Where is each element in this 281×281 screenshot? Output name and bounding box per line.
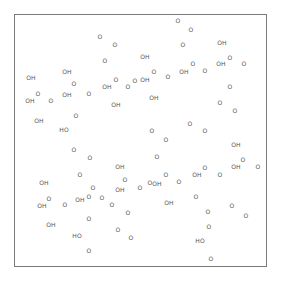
atom-label-oxygen: O xyxy=(72,81,77,87)
atom-label-oxygen: O xyxy=(133,78,138,84)
atom-label-oxygen: O xyxy=(203,68,208,74)
atom-label-oxygen: O xyxy=(100,195,105,201)
atom-label-oxygen: O xyxy=(241,157,246,163)
atom-label-hydroxyl: OH xyxy=(34,118,43,124)
atom-label-hydroxyl: OH xyxy=(140,77,149,83)
atom-label-oxygen: O xyxy=(123,177,128,183)
atom-label-oxygen: O xyxy=(138,185,143,191)
atom-label-oxygen: O xyxy=(74,113,79,119)
atom-label-hydroxyl: OH xyxy=(75,197,84,203)
atom-label-oxygen: O xyxy=(116,227,121,233)
atom-label-oxygen: O xyxy=(203,128,208,134)
atom-label-oxygen: O xyxy=(244,213,249,219)
atom-label-oxygen: O xyxy=(230,203,235,209)
atom-label-oxygen: O xyxy=(114,77,119,83)
atom-label-hydroxyl: OH xyxy=(179,69,188,75)
atom-label-oxygen: O xyxy=(103,58,108,64)
atom-label-oxygen: O xyxy=(78,172,83,178)
atom-label-hydroxyl: OH xyxy=(140,54,149,60)
atom-label-oxygen: O xyxy=(126,84,131,90)
atom-label-oxygen: O xyxy=(150,128,155,134)
atom-label-hydroxyl: OH xyxy=(25,98,34,104)
atom-label-hydroxyl-ho: HO xyxy=(195,238,204,244)
atom-label-oxygen: O xyxy=(164,172,169,178)
atom-label-hydroxyl: OH xyxy=(37,203,46,209)
atom-label-hydroxyl: OH xyxy=(111,102,120,108)
atom-label-oxygen: O xyxy=(256,164,261,170)
atom-label-oxygen: O xyxy=(207,224,212,230)
atom-label-oxygen: O xyxy=(113,42,118,48)
atom-label-oxygen: O xyxy=(49,98,54,104)
atom-label-oxygen: O xyxy=(166,74,171,80)
atom-label-oxygen: O xyxy=(87,91,92,97)
atom-label-oxygen: O xyxy=(36,91,41,97)
atom-label-hydroxyl: OH xyxy=(164,200,173,206)
atom-label-oxygen: O xyxy=(177,179,182,185)
atom-label-oxygen: O xyxy=(228,84,233,90)
atom-label-oxygen: O xyxy=(98,34,103,40)
atom-label-oxygen: O xyxy=(91,185,96,191)
atom-label-oxygen: O xyxy=(188,121,193,127)
atom-label-hydroxyl: OH xyxy=(152,181,161,187)
atom-label-oxygen: O xyxy=(152,69,157,75)
atom-label-oxygen: O xyxy=(181,42,186,48)
atom-label-oxygen: O xyxy=(206,209,211,215)
atom-label-hydroxyl: OH xyxy=(26,75,35,81)
atom-label-hydroxyl: OH xyxy=(39,180,48,186)
atom-label-oxygen: O xyxy=(242,61,247,67)
atom-label-hydroxyl: OH xyxy=(62,69,71,75)
atom-label-oxygen: O xyxy=(191,61,196,67)
atom-label-oxygen: O xyxy=(72,147,77,153)
atom-label-oxygen: O xyxy=(126,210,131,216)
atom-label-hydroxyl: OH xyxy=(102,84,111,90)
atom-label-oxygen: O xyxy=(88,155,93,161)
atom-label-hydroxyl: OH xyxy=(46,222,55,228)
atom-label-oxygen: O xyxy=(228,55,233,61)
atom-label-oxygen: O xyxy=(87,194,92,200)
atom-label-hydroxyl: OH xyxy=(216,61,225,67)
atom-label-hydroxyl-ho: HO xyxy=(59,127,68,133)
atom-label-hydroxyl: OH xyxy=(149,95,158,101)
atom-label-hydroxyl-ho: HO xyxy=(72,233,81,239)
atom-label-oxygen: O xyxy=(176,18,181,24)
atom-label-oxygen: O xyxy=(155,154,160,160)
atom-label-oxygen: O xyxy=(129,235,134,241)
atom-label-hydroxyl: OH xyxy=(62,92,71,98)
atom-label-oxygen: O xyxy=(63,202,68,208)
atom-label-hydroxyl: OH xyxy=(217,40,226,46)
atom-label-oxygen: O xyxy=(164,137,169,143)
atom-label-oxygen: O xyxy=(194,194,199,200)
structure-frame xyxy=(14,14,267,267)
atom-label-oxygen: O xyxy=(218,172,223,178)
atom-label-oxygen: O xyxy=(233,108,238,114)
atom-label-oxygen: O xyxy=(87,248,92,254)
atom-label-oxygen: O xyxy=(218,100,223,106)
atom-label-hydroxyl: OH xyxy=(231,142,240,148)
atom-label-oxygen: O xyxy=(87,216,92,222)
atom-label-oxygen: O xyxy=(203,165,208,171)
atom-label-hydroxyl: OH xyxy=(192,172,201,178)
atom-label-hydroxyl: OH xyxy=(231,164,240,170)
atom-label-oxygen: O xyxy=(110,202,115,208)
atom-label-hydroxyl: OH xyxy=(115,164,124,170)
atom-label-oxygen: O xyxy=(189,27,194,33)
atom-label-hydroxyl: OH xyxy=(115,187,124,193)
atom-label-oxygen: O xyxy=(209,256,214,262)
atom-label-oxygen: O xyxy=(47,196,52,202)
